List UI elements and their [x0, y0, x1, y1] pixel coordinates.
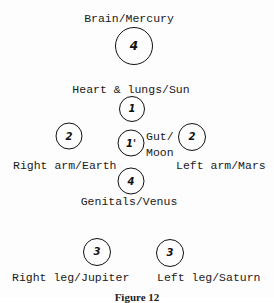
genitals-node-number: 4 [128, 176, 135, 186]
right-arm-earth-label: Right arm/Earth [13, 159, 117, 173]
gut-label: Gut/ [146, 130, 174, 144]
gut-node-number: 1' [126, 138, 136, 148]
heart-sun-label: Heart & lungs/Sun [72, 83, 189, 97]
genitals-venus-label: Genitals/Venus [81, 195, 178, 209]
right-leg-jupiter-label: Right leg/Jupiter [12, 271, 129, 285]
right-arm-node-number: 2 [66, 131, 73, 141]
brain-node-circle: 4 [115, 27, 153, 65]
right-leg-node-number: 3 [94, 247, 101, 257]
brain-node-number: 4 [130, 40, 138, 52]
genitals-node-circle: 4 [118, 168, 145, 195]
left-leg-saturn-label: Left leg/Saturn [157, 271, 261, 285]
left-arm-node-number: 2 [189, 132, 196, 142]
left-arm-node-circle: 2 [178, 123, 206, 151]
figure-caption: Figure 12 [115, 291, 160, 303]
right-leg-node-circle: 3 [83, 238, 111, 266]
heart-node-circle: 1 [119, 96, 145, 122]
gut-node-circle: 1' [118, 130, 145, 157]
heart-node-number: 1 [129, 104, 136, 114]
right-arm-node-circle: 2 [56, 123, 83, 150]
left-leg-node-circle: 3 [156, 239, 184, 267]
moon-label: Moon [146, 146, 174, 160]
left-leg-node-number: 3 [167, 248, 174, 258]
left-arm-mars-label: Left arm/Mars [176, 159, 266, 173]
brain-mercury-label: Brain/Mercury [84, 12, 174, 26]
